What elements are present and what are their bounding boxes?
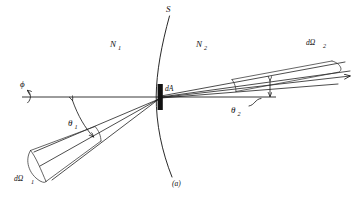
label-theta1-base: θ xyxy=(68,118,73,128)
label-N1-subscript: 1 xyxy=(118,44,121,51)
right-solid-angle-cone-group xyxy=(161,61,350,98)
right-central-ray-arrow xyxy=(161,76,350,98)
left-cone-upper-edge xyxy=(31,127,96,151)
label-solid-angle-left: dΩ 1 xyxy=(14,174,34,185)
label-dOmega2-subscript: 2 xyxy=(323,42,326,49)
label-dOmega1-subscript: 1 xyxy=(31,178,34,185)
label-medium-left: N 1 xyxy=(109,39,121,51)
label-dOmega2-base: dΩ xyxy=(306,38,316,47)
left-cone-end-cap-inner xyxy=(31,151,47,182)
figure-container: S N 1 N 2 dA ϕ θ 1 θ 2 dΩ 1 xyxy=(0,0,361,210)
left-solid-angle-cone-group xyxy=(28,99,159,182)
label-theta2-subscript: 2 xyxy=(238,110,241,117)
label-theta1-subscript: 1 xyxy=(75,123,78,130)
label-dOmega1-base: dΩ xyxy=(14,174,24,183)
label-N2-base: N xyxy=(195,39,203,49)
refraction-solid-angle-diagram: S N 1 N 2 dA ϕ θ 1 θ 2 dΩ 1 xyxy=(0,0,361,210)
label-N1-base: N xyxy=(109,39,117,49)
right-cone-lower-edge xyxy=(236,73,337,92)
label-theta1: θ 1 xyxy=(68,118,78,130)
label-medium-right: N 2 xyxy=(195,39,207,51)
theta2-leader xyxy=(249,99,261,107)
figure-caption: (a) xyxy=(172,179,181,188)
label-surface-S: S xyxy=(166,4,171,14)
label-solid-angle-right: dΩ 2 xyxy=(306,38,326,49)
label-azimuth-phi: ϕ xyxy=(20,79,25,89)
label-area-element-dA: dA xyxy=(165,84,174,93)
label-theta2-base: θ xyxy=(231,105,236,115)
left-ray-lower xyxy=(52,99,159,180)
label-theta2: θ 2 xyxy=(231,105,241,117)
right-cone-upper-edge xyxy=(232,61,332,80)
label-N2-subscript: 2 xyxy=(204,44,207,51)
